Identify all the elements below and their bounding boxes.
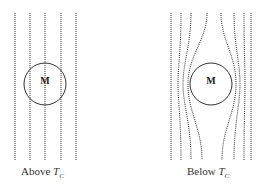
caption-prefix: Above — [21, 165, 53, 177]
meissner-effect-diagram: M M — [0, 0, 268, 186]
caption-sub: C — [225, 172, 230, 180]
material-label-below: M — [206, 75, 216, 86]
field-line — [234, 13, 240, 160]
field-line — [188, 13, 207, 160]
caption-prefix: Below — [187, 165, 218, 177]
caption-below: Below TC — [187, 165, 229, 180]
caption-sub: C — [59, 172, 64, 180]
caption-above: Above TC — [21, 165, 64, 180]
field-line — [178, 13, 181, 160]
material-label-above: M — [40, 75, 50, 86]
panel-below-tc — [171, 13, 251, 160]
field-line — [244, 13, 245, 160]
field-line — [221, 13, 236, 160]
